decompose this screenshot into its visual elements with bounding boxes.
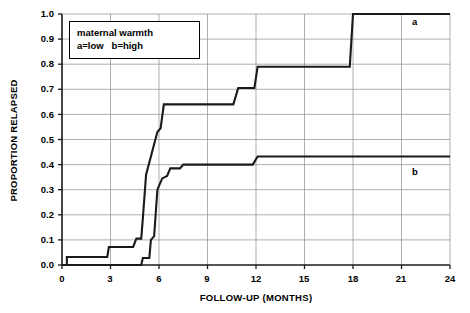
curve-label-a: a bbox=[412, 16, 417, 27]
chart-figure: PROPORTION RELAPSED FOLLOW-UP (MONTHS) 1… bbox=[0, 0, 470, 313]
legend-title: maternal warmth bbox=[77, 26, 199, 39]
legend-entries: a=low b=high bbox=[77, 39, 199, 52]
curve-label-b: b bbox=[412, 166, 418, 177]
legend-box: maternal warmth a=low b=high bbox=[69, 21, 200, 59]
